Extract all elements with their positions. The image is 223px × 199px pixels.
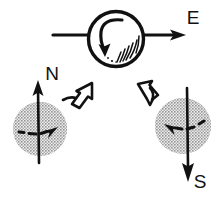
right-sphere-blob-texture [155, 98, 211, 154]
label-east: E [187, 7, 200, 28]
label-north: N [45, 63, 59, 84]
diagram-svg: E N S [0, 0, 223, 199]
north-axis-line [38, 88, 39, 163]
hollow-arrow-right [138, 81, 158, 105]
diagram-canvas: E N S [0, 0, 223, 199]
hollow-arrow-left [72, 83, 92, 108]
south-axis-line [187, 88, 188, 166]
label-south: S [194, 171, 207, 192]
